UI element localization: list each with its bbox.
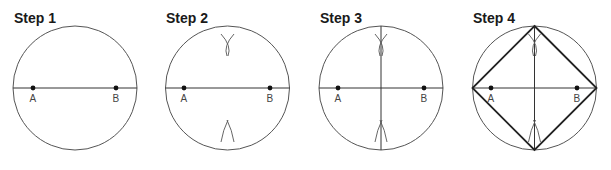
label-a: A [181, 93, 188, 104]
step-1-title: Step 1 [14, 10, 56, 26]
label-a: A [488, 93, 495, 104]
label-b: B [421, 93, 428, 104]
top-arc-from-b [226, 34, 234, 56]
point-b [575, 86, 580, 91]
point-b [114, 86, 119, 91]
point-b [422, 86, 427, 91]
point-a [182, 86, 187, 91]
bottom-arc-from-b [227, 120, 234, 142]
point-a [336, 86, 341, 91]
top-arc-from-a [221, 34, 229, 56]
bottom-arc-from-a [221, 120, 228, 142]
step-4-title: Step 4 [473, 10, 515, 26]
label-a: A [30, 93, 37, 104]
label-b: B [113, 93, 120, 104]
step-2-title: Step 2 [166, 10, 208, 26]
label-b: B [574, 93, 581, 104]
point-a [489, 86, 494, 91]
label-a: A [335, 93, 342, 104]
step-2-panel: Step 2 A B [166, 10, 290, 150]
step-3-title: Step 3 [320, 10, 362, 26]
step-3-panel: Step 3 A B [319, 10, 443, 150]
construction-steps-diagram: Step 1 A B Step 2 A B Step 3 A B [0, 0, 611, 170]
step-1-panel: Step 1 A B [13, 10, 137, 150]
step-4-panel: Step 4 A B [473, 10, 597, 150]
point-a [31, 86, 36, 91]
point-b [268, 86, 273, 91]
label-b: B [267, 93, 274, 104]
